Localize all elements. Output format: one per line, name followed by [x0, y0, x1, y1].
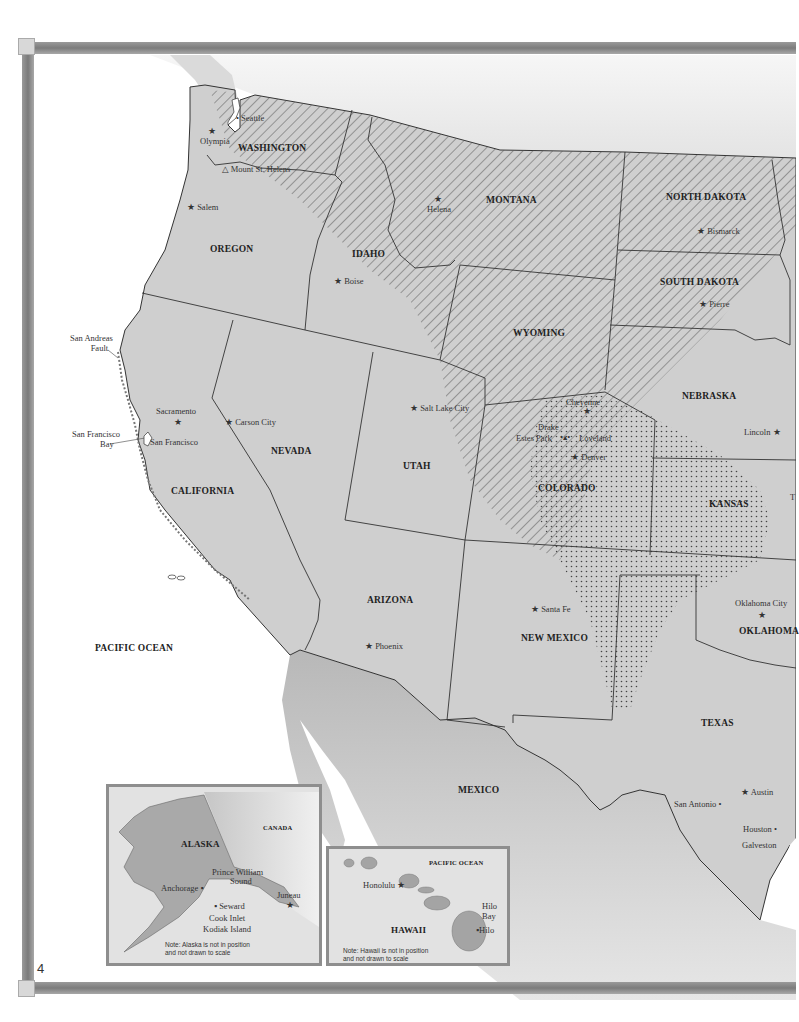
- hawaii-islands-shape: [329, 849, 507, 963]
- state-label-oregon: OREGON: [210, 244, 253, 254]
- city-san-antonio-label: San Antonio: [674, 799, 716, 809]
- honolulu-label: Honolulu ★: [363, 880, 405, 890]
- alaska-label: ALASKA: [181, 839, 220, 849]
- frame-top-bar: [18, 42, 796, 54]
- state-label-kansas: KANSAS: [709, 499, 749, 509]
- frame-corner-bottom: [18, 980, 35, 997]
- state-label-north-dakota: NORTH DAKOTA: [666, 192, 746, 202]
- anchorage-label: Anchorage ▪: [161, 883, 203, 893]
- page-number: 4: [37, 961, 44, 976]
- city-salt-lake-city-label: Salt Lake City: [420, 403, 469, 413]
- city-boise: ★ Boise: [334, 276, 364, 286]
- capital-star-icon: ★: [434, 194, 442, 204]
- hawaii-label: HAWAII: [391, 925, 426, 935]
- capital-star-icon: ★: [208, 126, 216, 136]
- state-label-montana: MONTANA: [486, 195, 537, 205]
- sf-bay-line1: San Francisco: [72, 429, 120, 439]
- city-denver-label: Denver: [581, 452, 606, 462]
- state-label-colorado: COLORADO: [538, 483, 596, 493]
- city-oklahoma-city: Oklahoma City: [735, 598, 787, 608]
- mount-st-helens: △ Mount St. Helens: [222, 164, 290, 174]
- city-austin-label: Austin: [751, 787, 774, 797]
- alaska-note: Note: Alaska is not in positionand not d…: [165, 941, 250, 957]
- city-lincoln: Lincoln ★: [744, 427, 781, 437]
- alaska-inset: ALASKA CANADA Prince WilliamSound Anchor…: [106, 784, 322, 966]
- frame-corner-top: [18, 38, 35, 55]
- state-label-washington: WASHINGTON: [238, 143, 306, 153]
- city-sacramento: Sacramento: [156, 406, 196, 416]
- state-label-california: CALIFORNIA: [171, 486, 234, 496]
- city-bismarck-label: Bismarck: [707, 226, 740, 236]
- city-salem: ★ Salem: [187, 202, 218, 212]
- anchorage-text: Anchorage: [161, 883, 198, 893]
- city-santa-fe: ★ Santa Fe: [531, 604, 571, 614]
- city-carson-city: ★ Carson City: [225, 417, 276, 427]
- mount-st-helens-label: Mount St. Helens: [231, 164, 291, 174]
- city-san-francisco: San Francisco: [150, 437, 198, 447]
- state-label-idaho: IDAHO: [352, 249, 385, 259]
- hilo-bay-line1: Hilo: [482, 901, 497, 911]
- city-drake: Drake: [538, 422, 559, 432]
- honolulu-text: Honolulu: [363, 880, 395, 890]
- city-bismarck: ★ Bismarck: [697, 226, 740, 236]
- frame-left-bar: [22, 42, 34, 984]
- sf-bay-line2: Bay: [78, 439, 114, 449]
- frame-bottom-bar: [18, 982, 796, 994]
- capital-star-icon: ★: [286, 900, 294, 910]
- city-carson-city-label: Carson City: [235, 417, 276, 427]
- state-label-nevada: NEVADA: [271, 446, 312, 456]
- city-salt-lake-city: ★ Salt Lake City: [410, 403, 469, 413]
- region-label-mexico: MEXICO: [458, 785, 499, 795]
- state-label-arizona: ARIZONA: [367, 595, 413, 605]
- canada-label: CANADA: [263, 824, 292, 831]
- state-label-wyoming: WYOMING: [513, 328, 565, 338]
- city-salem-label: Salem: [197, 202, 218, 212]
- city-seattle: • Seattle: [236, 113, 264, 123]
- state-label-new-mexico: NEW MEXICO: [521, 633, 588, 643]
- city-san-antonio: San Antonio •: [674, 799, 721, 809]
- hilo-text: Hilo: [479, 925, 494, 935]
- capital-star-icon: ★: [758, 610, 766, 620]
- capital-star-icon: ★: [174, 417, 182, 427]
- alaska-note-line2: and not drawn to scale: [165, 949, 230, 956]
- hawaii-note-line2: and not drawn to scale: [343, 955, 408, 962]
- city-santa-fe-label: Santa Fe: [541, 604, 571, 614]
- city-houston: Houston •: [743, 824, 777, 834]
- city-galveston: Galveston: [742, 840, 776, 850]
- state-label-oklahoma: OKLAHOMA: [739, 626, 799, 636]
- city-pierre-label: Pierre: [709, 299, 729, 309]
- hilo-bay-label: HiloBay: [482, 901, 497, 921]
- seward-label: ▪ Seward: [214, 901, 245, 911]
- city-seattle-label: Seattle: [241, 113, 264, 123]
- san-andreas-fault-label: San AndreasFault: [70, 333, 113, 353]
- texas-cut-label: T: [790, 492, 795, 502]
- city-pierre: ★ Pierre: [699, 299, 729, 309]
- kodiak-island-label: Kodiak Island: [203, 924, 251, 934]
- hawaii-pacific-ocean-label: PACIFIC OCEAN: [429, 859, 483, 866]
- city-estes-park: Estes Park: [516, 433, 552, 443]
- capital-star-icon: ★: [583, 406, 591, 416]
- city-helena: Helena: [427, 204, 451, 214]
- city-dots: •▴•: [560, 432, 570, 442]
- region-label-pacific-ocean: PACIFIC OCEAN: [95, 643, 173, 653]
- prince-william-sound-label: Prince WilliamSound: [212, 868, 263, 886]
- city-houston-label: Houston: [743, 824, 772, 834]
- pws-line2: Sound: [212, 876, 252, 886]
- alaska-note-line1: Note: Alaska is not in position: [165, 941, 250, 948]
- state-label-nebraska: NEBRASKA: [682, 391, 736, 401]
- city-phoenix-label: Phoenix: [375, 641, 403, 651]
- state-label-utah: UTAH: [403, 461, 431, 471]
- hawaii-note-line1: Note: Hawaii is not in position: [343, 947, 428, 954]
- city-austin: ★ Austin: [741, 787, 773, 797]
- juneau-label: Juneau: [277, 890, 301, 900]
- san-andreas-line1: San Andreas: [70, 333, 113, 343]
- city-phoenix: ★ Phoenix: [365, 641, 403, 651]
- city-olympia: Olympia: [200, 136, 230, 146]
- hawaii-inset: PACIFIC OCEAN Honolulu ★ HiloBay ▪Hilo H…: [326, 846, 510, 966]
- sf-bay-label: San FranciscoBay: [72, 429, 120, 449]
- hawaii-note: Note: Hawaii is not in positionand not d…: [343, 947, 428, 963]
- cook-inlet-label: Cook Inlet: [209, 913, 245, 923]
- hilo-label: ▪Hilo: [476, 925, 494, 935]
- seward-text: Seward: [219, 901, 245, 911]
- city-boise-label: Boise: [344, 276, 363, 286]
